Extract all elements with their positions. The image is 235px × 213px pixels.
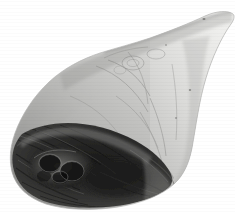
bone-and-marrow bbox=[30, 148, 94, 188]
scanned-page: stew and ragout. bbox=[0, 0, 235, 213]
ham-photograph bbox=[0, 0, 235, 213]
ham-photograph-svg bbox=[0, 0, 235, 213]
cut-dark-mass bbox=[84, 159, 152, 197]
